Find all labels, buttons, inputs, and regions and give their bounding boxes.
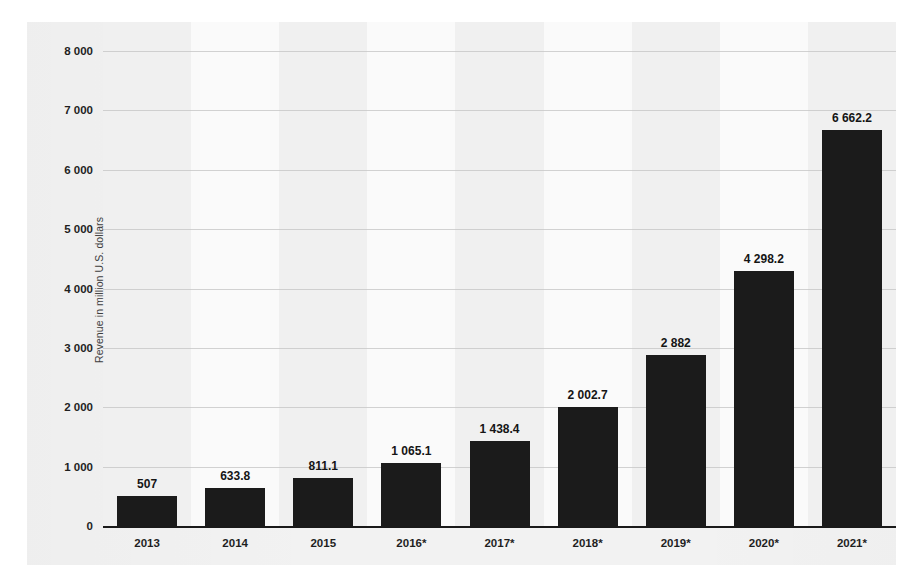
bar[interactable]	[470, 441, 530, 526]
x-tick-label: 2017*	[484, 537, 514, 549]
bar[interactable]	[734, 271, 794, 526]
x-tick-label: 2020*	[749, 537, 779, 549]
bar-value-label: 1 065.1	[391, 444, 431, 458]
bar-value-label: 811.1	[309, 459, 338, 473]
bar[interactable]	[293, 478, 353, 526]
bar[interactable]	[205, 488, 265, 526]
bar-value-label: 507	[137, 477, 157, 491]
bar-value-label: 2 882	[661, 336, 691, 350]
bar-chart: Revenue in million U.S. dollars 01 0002 …	[0, 0, 906, 579]
bar-value-label: 6 662.2	[832, 111, 872, 125]
x-tick-label: 2019*	[661, 537, 691, 549]
bar-value-label: 2 002.7	[568, 388, 608, 402]
bar[interactable]	[558, 407, 618, 526]
x-tick-label: 2018*	[573, 537, 603, 549]
x-tick-label: 2014	[222, 537, 248, 549]
bar[interactable]	[822, 130, 882, 526]
bar-value-label: 1 438.4	[479, 422, 519, 436]
x-tick-label: 2013	[134, 537, 160, 549]
bar[interactable]	[381, 463, 441, 526]
x-tick-label: 2016*	[396, 537, 426, 549]
bar-value-label: 4 298.2	[744, 252, 784, 266]
x-tick-label: 2021*	[837, 537, 867, 549]
bar[interactable]	[646, 355, 706, 526]
bar-value-label: 633.8	[220, 469, 250, 483]
bars-layer: 507633.8811.11 065.11 438.42 002.72 8824…	[0, 0, 906, 579]
bar[interactable]	[117, 496, 177, 526]
x-tick-label: 2015	[310, 537, 336, 549]
